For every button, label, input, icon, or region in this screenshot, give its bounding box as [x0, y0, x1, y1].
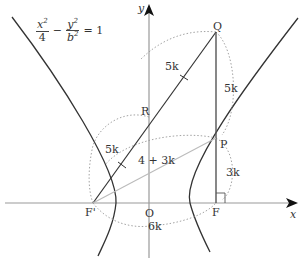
label-F-prime-F-6k: 6k	[148, 220, 162, 233]
label-PF-3k: 3k	[226, 166, 240, 179]
label-QP-5k: 5k	[224, 82, 238, 95]
y-axis-label: y	[137, 2, 145, 15]
point-P-label: P	[220, 138, 228, 151]
point-F-label: F	[212, 206, 220, 219]
label-QR-5k: 5k	[165, 60, 179, 73]
origin-O-label: O	[145, 207, 154, 220]
x-axis-label: x	[290, 208, 297, 221]
diagram-labels: y x Q R P F F' O 5k 5k 5k 4 + 3k 3k 6k	[0, 0, 308, 259]
point-F-prime-label: F'	[85, 206, 96, 219]
label-PF-prime-4-plus-3k: 4 + 3k	[138, 154, 175, 167]
point-R-label: R	[141, 105, 150, 118]
point-Q-label: Q	[213, 20, 222, 33]
label-RF-prime-5k: 5k	[105, 143, 119, 156]
